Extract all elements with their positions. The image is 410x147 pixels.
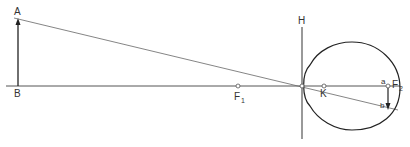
label-b-image: b [380,101,385,110]
label-f1: F [234,91,240,102]
principal-point [300,84,304,88]
label-a: A [14,6,21,17]
focal-point-f2 [386,84,390,88]
nodal-ray [14,18,398,110]
label-a-image: a [381,77,386,86]
label-f1-sub: 1 [241,97,245,104]
focal-point-f1 [236,84,240,88]
label-f2-sub: 2 [399,85,403,92]
label-h: H [298,15,305,26]
eye-optics-diagram: A B H F 1 K F 2 a b [0,0,410,147]
image-arrowhead-icon [386,103,391,110]
label-k: K [320,88,327,99]
label-b: B [14,88,21,99]
label-f2: F [392,79,398,90]
